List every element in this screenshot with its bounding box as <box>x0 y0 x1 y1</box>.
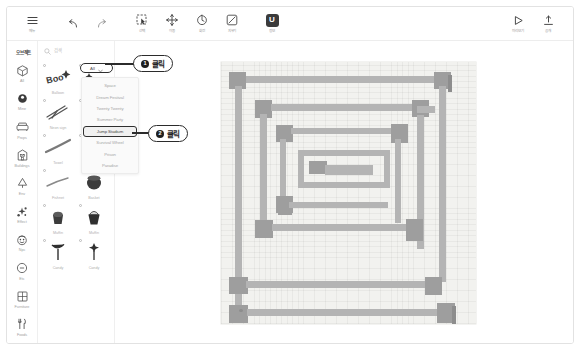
brand-button[interactable]: U 정보 <box>257 13 287 34</box>
dropdown-option-survival-wheel[interactable]: Survival Wheel <box>82 137 138 148</box>
map-node-shadow <box>448 75 452 92</box>
chevron-down-icon <box>98 59 103 77</box>
map-node <box>255 220 273 238</box>
callout-step-2-number: 2 <box>156 130 164 138</box>
undo-button[interactable] <box>57 17 87 31</box>
sidebar-item-buildings[interactable]: Buildings <box>7 146 38 172</box>
sidebar-item-env[interactable]: Env <box>7 174 38 200</box>
sidebar-item-buildings-label: Buildings <box>15 164 30 169</box>
filter-dropdown-menu: Space Dream Festival Twenty Twenty Summe… <box>81 77 139 174</box>
map-editor-window: 메뉴 <box>6 6 574 344</box>
minus-circle-icon <box>16 262 28 275</box>
tool-select[interactable]: 선택 <box>127 13 157 34</box>
menu-label: 메뉴 <box>29 29 35 34</box>
sidebar-item-foods-label: Foods <box>17 333 27 338</box>
asset-thumbnail <box>40 238 76 265</box>
sofa-icon <box>16 121 29 134</box>
tool-rotate-label: 회전 <box>199 29 205 34</box>
map-node <box>425 277 442 295</box>
sidebar-item-furniture-label: Furniture <box>15 305 30 310</box>
asset-item[interactable]: Candy <box>76 236 112 271</box>
asset-thumbnail <box>76 203 112 230</box>
map-wall <box>289 202 388 208</box>
svg-text:Boo: Boo <box>45 71 65 85</box>
map-wall <box>235 86 242 305</box>
dropdown-option-paradise[interactable]: Paradise <box>82 160 138 171</box>
redo-button[interactable] <box>87 17 117 31</box>
window-icon <box>17 290 28 303</box>
sidebar-item-env-label: Env <box>19 192 25 197</box>
dropdown-option-space[interactable]: Space <box>82 80 138 91</box>
map-wall <box>246 281 432 288</box>
asset-item[interactable]: Muffin <box>76 201 112 236</box>
callout-step-1-number: 1 <box>141 60 149 68</box>
publish-button[interactable]: 공개 <box>533 13 563 34</box>
asset-thumbnail <box>40 133 76 160</box>
panel-title: 오브젝트 <box>16 49 31 55</box>
dropdown-option-twenty-twenty[interactable]: Twenty Twenty <box>82 103 138 114</box>
category-rail: All Mine <box>7 41 38 343</box>
search-icon <box>44 41 51 59</box>
map-wall <box>395 139 401 223</box>
map-node <box>229 305 248 323</box>
search-input[interactable]: 검색 <box>54 47 62 53</box>
map-wall <box>272 224 408 231</box>
sidebar-item-props-label: Props <box>17 136 27 141</box>
sidebar-item-effect[interactable]: Effect <box>7 202 38 228</box>
map-wall <box>298 150 390 156</box>
asset-item[interactable]: Towel <box>40 131 76 166</box>
dropdown-option-dream-festival[interactable]: Dream Festival <box>82 91 138 102</box>
map-wall <box>439 86 446 282</box>
asset-item[interactable]: Candy <box>40 236 76 271</box>
asset-item[interactable]: Boo Balloon <box>40 61 76 96</box>
preview-button[interactable]: 미리보기 <box>503 13 533 34</box>
menu-button[interactable]: 메뉴 <box>17 13 47 34</box>
callout-leader-1 <box>105 63 135 65</box>
dropdown-option-prison[interactable]: Prison <box>82 148 138 159</box>
callout-step-1-label: 클릭 <box>152 58 165 69</box>
sidebar-item-npc-label: Npc <box>19 248 26 253</box>
brand-label: 정보 <box>269 29 275 34</box>
sidebar-item-effect-label: Effect <box>17 220 26 225</box>
tool-eraser[interactable]: 지우기 <box>217 13 247 34</box>
callout-step-2: 2 클릭 <box>148 125 188 142</box>
sidebar-item-foods[interactable]: Foods <box>7 315 38 341</box>
fork-knife-icon <box>16 318 28 331</box>
hamburger-icon <box>27 13 38 27</box>
circle-filled-icon <box>17 92 28 105</box>
map-marker <box>239 309 243 312</box>
sidebar-item-furniture[interactable]: Furniture <box>7 287 38 313</box>
map-node <box>310 162 316 174</box>
preview-label: 미리보기 <box>512 29 523 34</box>
building-icon <box>17 149 28 162</box>
callout-step-1: 1 클릭 <box>133 55 173 72</box>
map-wall <box>247 309 441 316</box>
dropdown-option-jump-stadium[interactable]: Jump Stadium <box>83 126 137 137</box>
asset-search-bar[interactable]: 검색 <box>38 41 114 59</box>
sidebar-item-all[interactable]: All <box>7 61 38 87</box>
tool-move[interactable]: 이동 <box>157 13 187 34</box>
map-grid[interactable] <box>221 62 476 324</box>
asset-label: Candy <box>89 265 100 271</box>
tool-move-label: 이동 <box>169 29 175 34</box>
asset-thumbnail <box>76 238 112 265</box>
eraser-icon <box>226 13 238 27</box>
play-icon <box>513 13 524 27</box>
sidebar-item-props[interactable]: Props <box>7 117 38 143</box>
sidebar-item-mine[interactable]: Mine <box>7 89 38 115</box>
map-node-shadow <box>452 306 456 324</box>
top-toolbar: 메뉴 <box>7 7 573 41</box>
tool-eraser-label: 지우기 <box>228 29 236 34</box>
asset-thumbnail <box>40 168 76 195</box>
logo-icon: U <box>266 13 279 27</box>
map-canvas[interactable] <box>115 41 573 343</box>
sidebar-item-npc[interactable]: Npc <box>7 230 38 256</box>
face-icon <box>16 233 28 246</box>
dropdown-option-summer-party[interactable]: Summer Party <box>82 114 138 125</box>
sidebar-item-etc[interactable]: Etc <box>7 258 38 284</box>
map-wall <box>291 128 397 134</box>
asset-item[interactable]: Fishnet <box>40 166 76 201</box>
asset-item[interactable]: Muffin <box>40 201 76 236</box>
asset-item[interactable]: Neon sign <box>40 96 76 131</box>
tool-rotate[interactable]: 회전 <box>187 13 217 34</box>
